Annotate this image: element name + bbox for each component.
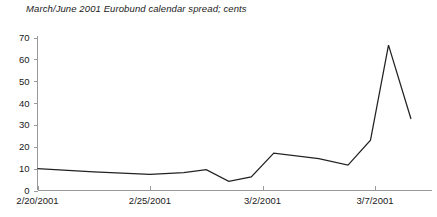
y-tick-label: 20 [19,141,30,152]
y-tick-label: 50 [19,76,30,87]
data-series-line [38,45,412,181]
x-tick-label: 2/25/2001 [129,195,171,206]
y-tick-label: 60 [19,54,30,65]
x-tick-label: 2/20/2001 [16,195,58,206]
x-axis-ticks: 2/20/20012/25/20013/2/20013/7/2001 [16,186,393,206]
y-tick-label: 40 [19,98,30,109]
chart-figure: March/June 2001 Eurobund calendar spread… [0,0,437,217]
chart-plot-area: 010203040506070 2/20/20012/25/20013/2/20… [0,0,437,217]
x-tick-label: 3/7/2001 [357,195,394,206]
y-tick-label: 30 [19,119,30,130]
y-axis-ticks: 010203040506070 [19,32,38,196]
x-tick-label: 3/2/2001 [244,195,281,206]
y-tick-label: 70 [19,32,30,43]
y-tick-label: 10 [19,163,30,174]
